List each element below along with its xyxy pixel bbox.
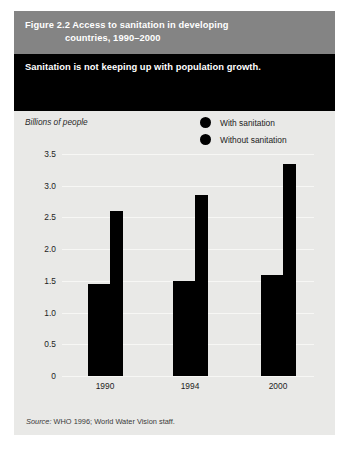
bar: [88, 284, 110, 376]
legend-label: With sanitation: [220, 118, 275, 128]
x-axis-tick: 1990: [96, 381, 115, 391]
figure-subtitle-band: Sanitation is not keeping up with popula…: [14, 54, 335, 111]
x-axis-tick: 2000: [269, 381, 288, 391]
figure-number: Figure 2.2: [25, 20, 70, 30]
legend-item-without-sanitation: Without sanitation: [200, 131, 287, 148]
y-axis-tick: 2.5: [44, 212, 56, 222]
source-note: Source: WHO 1996; World Water Vision sta…: [26, 417, 175, 426]
legend-dot-icon: [200, 117, 211, 128]
legend-dot-icon: [200, 134, 211, 145]
y-axis-tick: 3.0: [44, 181, 56, 191]
y-axis-label: Billions of people: [25, 117, 88, 127]
source-word: Source:: [26, 417, 51, 426]
legend-item-with-sanitation: With sanitation: [200, 114, 287, 131]
bar-group: 2000: [261, 154, 296, 376]
legend-label: Without sanitation: [220, 135, 287, 145]
chart-legend: With sanitation Without sanitation: [200, 114, 287, 148]
y-axis-tick: 1.5: [44, 276, 56, 286]
y-axis-tick: 0: [51, 371, 56, 381]
bar-group: 1990: [88, 154, 123, 376]
figure-title-line2: countries, 1990–2000: [25, 32, 325, 45]
figure-subtitle: Sanitation is not keeping up with popula…: [25, 61, 325, 72]
chart-panel: Billions of people With sanitation Witho…: [14, 111, 335, 435]
bar: [110, 211, 123, 376]
y-axis-tick: 1.0: [44, 308, 56, 318]
figure-title-line1: Access to sanitation in developing: [72, 20, 228, 30]
bar: [261, 275, 283, 376]
y-axis-tick: 3.5: [44, 149, 56, 159]
gridline: [62, 376, 314, 377]
bar: [195, 195, 208, 376]
x-axis-tick: 1994: [181, 381, 200, 391]
bar: [173, 281, 195, 376]
source-rest: WHO 1996; World Water Vision staff.: [51, 417, 174, 426]
figure-panel: Figure 2.2 Access to sanitation in devel…: [14, 11, 335, 435]
bar-group: 1994: [173, 154, 208, 376]
y-axis-tick: 2.0: [44, 244, 56, 254]
figure-title: Figure 2.2 Access to sanitation in devel…: [25, 19, 325, 44]
figure-title-band: Figure 2.2 Access to sanitation in devel…: [14, 11, 335, 54]
plot-area: 00.51.01.52.02.53.03.5199019942000: [62, 154, 314, 376]
bar: [283, 164, 296, 376]
y-axis-tick: 0.5: [44, 339, 56, 349]
